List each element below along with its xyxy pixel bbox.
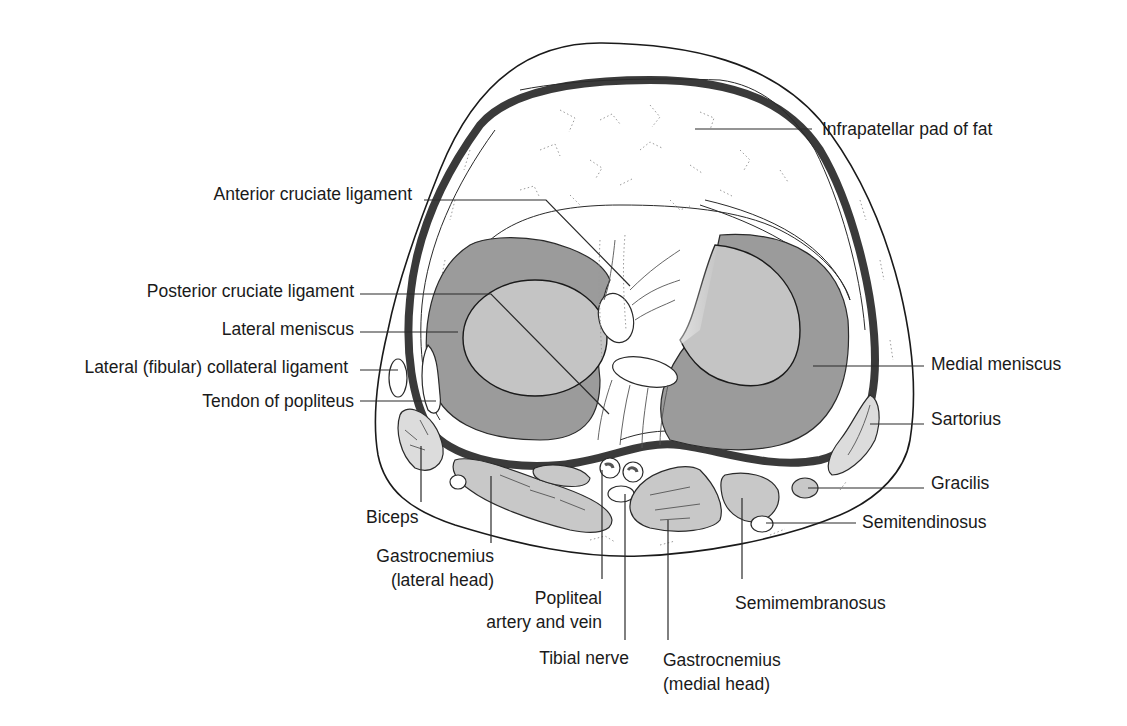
- label-acl: Anterior cruciate ligament: [214, 184, 413, 204]
- label-gastrocnemius-lateral-line1: Gastrocnemius: [376, 546, 494, 566]
- semitendinosus-shape: [751, 516, 773, 532]
- label-sartorius: Sartorius: [931, 409, 1001, 429]
- lcl-shape: [389, 359, 407, 397]
- label-popliteal-line2: artery and vein: [486, 612, 602, 632]
- sartorius-shape: [828, 395, 879, 475]
- label-biceps: Biceps: [366, 507, 419, 527]
- label-popliteus-tendon: Tendon of popliteus: [202, 391, 354, 411]
- label-medial-meniscus: Medial meniscus: [931, 354, 1062, 374]
- label-gastrocnemius-lateral-line2: (lateral head): [391, 570, 494, 590]
- knee-cross-section-diagram: Infrapatellar pad of fat Anterior crucia…: [0, 0, 1127, 726]
- popliteal-artery: [600, 458, 620, 478]
- tibial-nerve-shape: [608, 486, 634, 502]
- label-gracilis: Gracilis: [931, 473, 990, 493]
- label-popliteal-line1: Popliteal: [535, 588, 602, 608]
- label-pcl: Posterior cruciate ligament: [147, 281, 354, 301]
- label-lcl: Lateral (fibular) collateral ligament: [84, 357, 348, 377]
- semimembranosus-muscle: [721, 473, 779, 522]
- gastrocnemius-medial-head: [630, 467, 721, 531]
- label-semimembranosus: Semimembranosus: [735, 593, 886, 613]
- label-infrapatellar-fat: Infrapatellar pad of fat: [822, 119, 992, 139]
- popliteal-vein: [623, 462, 643, 482]
- label-semitendinosus: Semitendinosus: [862, 512, 987, 532]
- label-tibial-nerve: Tibial nerve: [539, 648, 629, 668]
- small-vessel: [450, 475, 466, 489]
- label-gastrocnemius-medial-line1: Gastrocnemius: [663, 650, 781, 670]
- label-lateral-meniscus: Lateral meniscus: [222, 319, 355, 339]
- label-gastrocnemius-medial-line2: (medial head): [663, 674, 770, 694]
